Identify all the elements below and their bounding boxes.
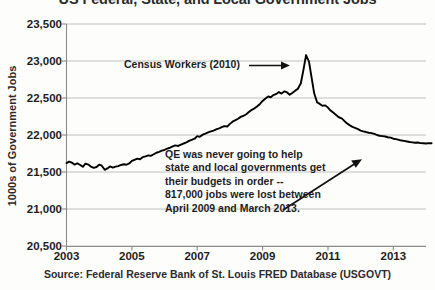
census-annotation-arrow (249, 62, 290, 70)
plot-area (0, 0, 435, 290)
chart-figure: US Federal, State, and Local Government … (0, 0, 435, 290)
x-tick-label: 2007 (184, 250, 210, 262)
annotation-qe-text: QE was never going to help state and loc… (165, 148, 325, 215)
x-tick-label: 2003 (54, 250, 80, 262)
source-note: Source: Federal Reserve Bank of St. Loui… (0, 268, 435, 280)
annotation-census-workers: Census Workers (2010) (124, 58, 240, 70)
x-tick-label: 2013 (381, 250, 407, 262)
x-tick-label: 2009 (250, 250, 276, 262)
x-tick-label: 2005 (119, 250, 145, 262)
x-tick-label: 2011 (315, 250, 340, 262)
